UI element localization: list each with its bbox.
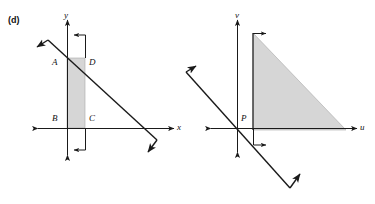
diagonal-right-bent-arrow xyxy=(148,140,157,152)
figure-panel-d: (d) y x A D B C v u P xyxy=(0,0,375,204)
left-diagram-group xyxy=(37,20,174,155)
vertex-label-b: B xyxy=(52,114,58,123)
right-diagram-group xyxy=(186,20,357,188)
axis-label-u: u xyxy=(360,123,365,132)
diagonal-left-bent-arrow xyxy=(37,40,48,47)
figure-drawing xyxy=(0,0,375,204)
vertex-label-c: C xyxy=(89,114,95,123)
axis-label-y: y xyxy=(64,11,68,20)
diagonal-right-bottom-bent-arrow xyxy=(290,174,300,188)
vertex-label-a: A xyxy=(52,58,58,67)
vertex-label-d: D xyxy=(89,58,96,67)
diagonal-line-left xyxy=(48,40,157,140)
axis-label-x: x xyxy=(177,123,181,132)
shaded-region-triangle xyxy=(253,33,346,130)
part-label-d: (d) xyxy=(8,16,20,25)
axis-label-v: v xyxy=(235,11,239,20)
diagonal-right-top-bent-arrow xyxy=(186,66,196,72)
vertex-label-p: P xyxy=(241,114,247,123)
shaded-region-abcd xyxy=(67,58,85,128)
